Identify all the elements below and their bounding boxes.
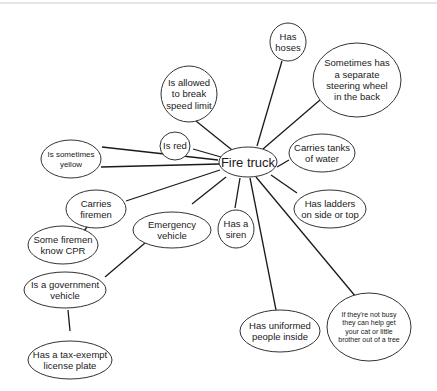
node-label-line: license plate	[44, 360, 97, 371]
node-label-line: vehicle	[50, 290, 80, 301]
edge-fire-truck-to-has-hoses	[257, 61, 282, 146]
node-label-line: Is red	[163, 140, 187, 151]
node-label-line: in the back	[334, 91, 380, 102]
edge-fire-truck-to-tanks-water	[277, 160, 289, 167]
node-label-line: Has a	[224, 218, 250, 229]
node-label-line: your cat or little	[345, 328, 393, 336]
node-label-line: Is sometimes	[47, 150, 94, 159]
node-label-line: a separate	[335, 69, 380, 80]
node-label-line: Fire truck	[221, 155, 276, 170]
node-government-vehicle: Is a governmentvehicle	[24, 272, 106, 308]
node-label-line: yellow	[60, 160, 82, 169]
edge-fire-truck-to-carries-firemen	[126, 170, 220, 201]
node-has-hoses: Hashoses	[270, 23, 306, 61]
edge-fire-truck-to-uniformed-people	[250, 178, 276, 310]
node-label-line: siren	[226, 229, 247, 240]
node-label-line: of water	[305, 153, 339, 164]
node-emergency-vehicle: Emergencyvehicle	[133, 212, 211, 248]
node-label-line: Carries tanks	[294, 142, 350, 153]
node-label-line: they can help get	[342, 319, 395, 327]
node-label-line: Is a government	[31, 279, 99, 290]
node-label-line: Carries	[81, 198, 112, 209]
node-label-line: vehicle	[157, 230, 187, 241]
node-label-line: steering wheel	[326, 80, 387, 91]
node-label-line: Has a tax-exempt	[33, 349, 108, 360]
edge-fire-truck-to-break-speed	[196, 121, 232, 150]
node-label-line: brother out of a tree	[338, 336, 400, 343]
node-label-line: to break	[172, 88, 207, 99]
node-ladders: Has ladderson side or top	[294, 190, 366, 228]
node-label-line: Has uniformed	[249, 320, 311, 331]
node-label-line: Has	[280, 31, 297, 42]
edge-government-vehicle-to-tax-exempt	[68, 310, 70, 331]
node-sometimes-yellow: Is sometimesyellow	[41, 140, 101, 178]
node-carries-firemen: Carriesfiremen	[66, 190, 126, 228]
node-uniformed-people: Has uniformedpeople inside	[240, 310, 320, 352]
node-label-line: people inside	[252, 331, 308, 342]
nodes-layer: Fire truckHashosesSometimes hasa separat…	[24, 23, 411, 379]
node-firemen-cpr: Some firemenknow CPR	[28, 226, 98, 264]
edge-emergency-vehicle-to-government-vehicle	[105, 243, 145, 277]
node-separate-steering: Sometimes hasa separatesteering wheelin …	[313, 43, 401, 117]
node-label-line: If they're not busy	[341, 311, 397, 319]
node-label-line: Is allowed	[168, 77, 210, 88]
node-label-line: on side or top	[301, 209, 359, 220]
node-tax-exempt: Has a tax-exemptlicense plate	[28, 341, 112, 379]
node-label-line: Has ladders	[305, 198, 356, 209]
concept-map-canvas: Fire truckHashosesSometimes hasa separat…	[0, 0, 437, 391]
edge-fire-truck-to-emergency-vehicle	[192, 177, 226, 204]
node-fire-truck: Fire truck	[219, 147, 277, 177]
edge-fire-truck-to-is-red	[193, 149, 221, 157]
node-siren: Has asiren	[218, 210, 254, 248]
node-label-line: Sometimes has	[324, 57, 390, 68]
node-tanks-water: Carries tanksof water	[289, 134, 355, 172]
node-label-line: speed limit	[166, 100, 212, 111]
edge-fire-truck-to-ladders	[271, 175, 297, 193]
node-label-line: Emergency	[148, 219, 196, 230]
node-label-line: know CPR	[41, 245, 86, 256]
edge-fire-truck-to-sometimes-yellow	[101, 164, 219, 167]
node-label-line: hoses	[275, 42, 301, 53]
node-cat-tree: If they're not busythey can help getyour…	[327, 293, 411, 361]
node-label-line: firemen	[80, 209, 112, 220]
node-is-red: Is red	[160, 132, 190, 160]
node-break-speed: Is allowedto breakspeed limit	[161, 66, 217, 122]
node-label-line: Some firemen	[33, 234, 92, 245]
edge-fire-truck-to-siren	[235, 178, 240, 208]
